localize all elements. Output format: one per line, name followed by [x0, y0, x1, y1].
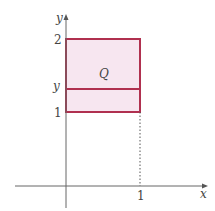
tick-label-y-variable: y	[52, 79, 60, 93]
y-axis-label: y	[55, 11, 63, 25]
tick-label-x-1: 1	[137, 189, 145, 203]
x-axis-label: x	[200, 187, 207, 201]
tick-label-y-1: 1	[54, 106, 62, 120]
y-axis-arrow-icon	[64, 14, 69, 20]
tick-label-y-2: 2	[54, 33, 62, 47]
diagram-canvas: y x 2 y 1 1 Q	[0, 0, 215, 211]
region-label: Q	[99, 67, 109, 81]
